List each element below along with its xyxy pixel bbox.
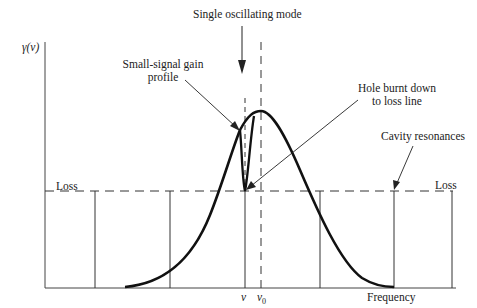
cavity-arrow-head	[393, 180, 400, 190]
hole-label-line1: Hole burnt down	[352, 82, 442, 95]
hole-label: Hole burnt down to loss line	[352, 82, 442, 108]
gain-profile-label: Small-signal gain profile	[118, 58, 208, 84]
loss-label-right: Loss	[435, 179, 457, 192]
hole-label-line2: to loss line	[352, 95, 442, 108]
cavity-resonances	[95, 191, 452, 288]
nu0-tick-label: ν0	[257, 291, 266, 308]
gain-profile-label-line1: Small-signal gain	[118, 58, 208, 71]
cavity-resonances-label: Cavity resonances	[381, 130, 465, 143]
mode-arrow-head	[238, 60, 246, 74]
nu0-subscript: 0	[262, 297, 266, 306]
gain-profile-label-line2: profile	[118, 71, 208, 84]
gain-profile-curve	[125, 111, 394, 287]
single-mode-label: Single oscillating mode	[193, 8, 302, 21]
nu-tick-label: ν	[241, 291, 246, 304]
gain-arrow-shaft	[185, 80, 236, 127]
x-axis-label: Frequency	[367, 291, 416, 304]
cavity-arrow-shaft	[397, 146, 413, 183]
loss-label-left: Loss	[56, 180, 78, 193]
y-axis-label: γ(ν)	[22, 41, 39, 54]
diagram-canvas	[0, 0, 477, 308]
